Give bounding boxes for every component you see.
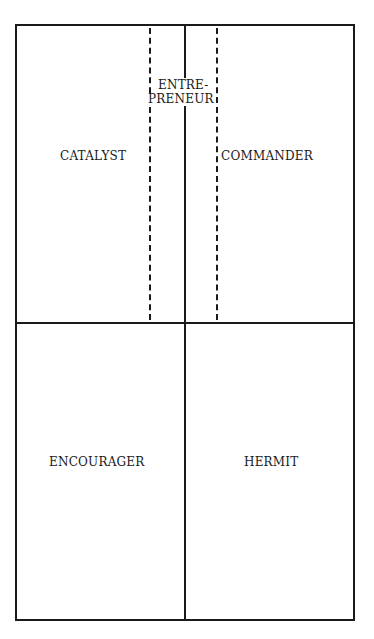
entrepreneur-dashed-left — [149, 28, 151, 320]
horizontal-divider — [15, 322, 355, 324]
quadrant-label-encourager: ENCOURAGER — [49, 456, 144, 469]
quadrant-label-catalyst: CATALYST — [60, 150, 126, 163]
quadrant-label-hermit: HERMIT — [244, 456, 299, 469]
entrepreneur-label-line1: ENTRE- — [158, 79, 209, 92]
quadrant-label-commander: COMMANDER — [221, 150, 313, 163]
entrepreneur-dashed-right — [216, 28, 218, 320]
entrepreneur-label-line2: PRENEUR — [148, 93, 214, 106]
